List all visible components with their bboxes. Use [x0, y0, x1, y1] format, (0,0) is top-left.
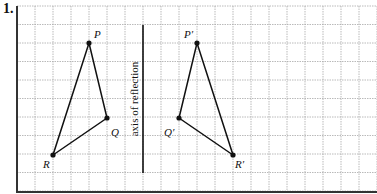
- vertex-q-prime-dot: [176, 115, 181, 120]
- triangle-pqr: PQR: [42, 28, 119, 170]
- vertex-q-label: Q: [111, 126, 119, 138]
- vertex-q-prime-label: Q′: [164, 126, 175, 138]
- axis-of-reflection-label: axis of reflection: [128, 61, 140, 136]
- vertex-r-prime-label: R′: [234, 158, 245, 170]
- vertex-r-label: R: [42, 158, 50, 170]
- vertex-r-dot: [50, 152, 55, 157]
- vertex-r-prime-dot: [230, 152, 235, 157]
- reflection-figure: axis of reflection PQR P′Q′R′: [0, 0, 377, 194]
- vertex-p-prime-label: P′: [183, 28, 194, 40]
- vertex-q-dot: [104, 115, 109, 120]
- triangle-edges-prime: [179, 43, 233, 155]
- vertex-p-label: P: [93, 28, 101, 40]
- vertex-p-prime-dot: [194, 40, 199, 45]
- vertex-p-dot: [86, 40, 91, 45]
- triangle-edges: [53, 43, 107, 155]
